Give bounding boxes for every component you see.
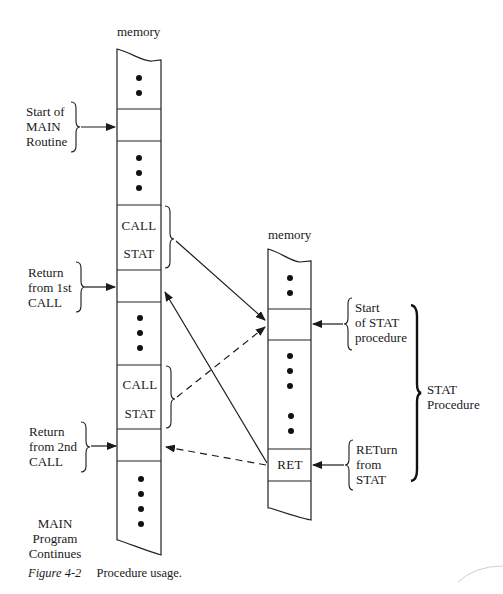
arrow-ret-to-return-1 xyxy=(165,292,267,463)
label-main-continues-1: MAIN xyxy=(28,516,82,531)
call-1-line-2: STAT xyxy=(117,246,161,262)
diagram-graphics xyxy=(0,0,503,594)
label-return-stat-2: from xyxy=(356,457,381,472)
brace-return-1 xyxy=(76,262,85,312)
label-return-stat-1: RETurn xyxy=(356,442,397,457)
call-1-line-1: CALL xyxy=(117,218,161,234)
label-return-stat-3: STAT xyxy=(356,472,386,487)
label-main-continues-2: Program xyxy=(28,531,82,546)
brace-start-stat xyxy=(344,298,352,350)
label-stat-procedure-1: STAT xyxy=(427,382,457,397)
figure-caption-text: Procedure usage. xyxy=(96,566,181,580)
label-start-stat-1: Start xyxy=(355,300,380,315)
brace-call-2 xyxy=(166,366,175,428)
label-return-1-1: Return xyxy=(28,265,63,280)
brace-call-1 xyxy=(165,206,174,268)
main-memory-ellipsis-dots xyxy=(136,75,144,527)
label-return-2-1: Return xyxy=(29,424,64,439)
brace-start-main xyxy=(71,102,80,152)
stat-memory-title: memory xyxy=(268,227,311,242)
scan-artifact-arc xyxy=(458,566,503,582)
figure-caption: Figure 4-2 Procedure usage. xyxy=(28,566,182,581)
label-return-2-3: CALL xyxy=(29,454,63,469)
main-memory-title: memory xyxy=(117,24,160,39)
call-return-arrows xyxy=(165,241,267,465)
stat-memory-ellipsis-dots xyxy=(287,275,294,434)
right-braces xyxy=(344,298,353,490)
label-return-1-3: CALL xyxy=(28,295,62,310)
arrow-call-1-to-stat xyxy=(176,241,265,320)
right-pointer-arrows xyxy=(313,324,344,465)
ret-cell-label: RET xyxy=(268,457,312,473)
label-start-main-1: Start of xyxy=(26,104,65,119)
arrow-ret-to-return-2 xyxy=(166,447,266,465)
brace-return-stat xyxy=(345,440,353,490)
label-stat-procedure-2: Procedure xyxy=(427,397,480,412)
brace-stat-procedure xyxy=(411,305,421,481)
label-return-2-2: from 2nd xyxy=(29,439,77,454)
label-start-stat-3: procedure xyxy=(355,330,407,345)
call-2-line-2: STAT xyxy=(118,406,162,422)
label-return-1-2: from 1st xyxy=(28,280,72,295)
label-start-stat-2: of STAT xyxy=(355,315,399,330)
left-pointer-arrows xyxy=(81,127,116,446)
label-start-main-2: MAIN xyxy=(26,119,61,134)
call-2-line-1: CALL xyxy=(118,377,162,393)
label-start-main-3: Routine xyxy=(26,134,67,149)
label-main-continues-3: Continues xyxy=(28,546,82,561)
procedure-usage-diagram: memory memory CALL STAT CALL STAT RET St… xyxy=(0,0,503,594)
brace-return-2 xyxy=(81,422,90,472)
figure-number: Figure 4-2 xyxy=(28,566,81,580)
